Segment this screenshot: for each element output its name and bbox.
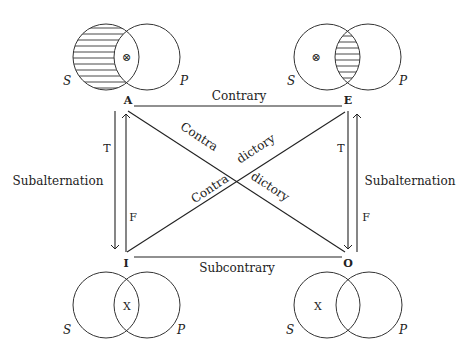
square-of-opposition: A E I O Contrary Subcontrary Contra dict…	[13, 89, 456, 275]
label-s-a: S	[63, 74, 71, 88]
x-mark-a: ⊗	[122, 51, 131, 64]
right-subalternation-label: Subalternation	[365, 174, 456, 188]
right-true-label: T	[337, 142, 345, 155]
contrary-label: Contrary	[212, 89, 267, 103]
square-of-opposition-diagram: ⊗ S P ⊗ S P	[0, 0, 473, 357]
x-mark-e: ⊗	[311, 51, 320, 64]
corner-i: I	[123, 257, 128, 270]
subcontrary-label: Subcontrary	[199, 261, 275, 275]
right-false-label: F	[362, 211, 370, 224]
label-s-o: S	[286, 323, 294, 337]
contradictory-label-e-part2: dictory	[234, 131, 278, 166]
label-s-e: S	[287, 74, 295, 88]
venn-diagram-o: X S P	[286, 272, 408, 338]
label-s-i: S	[63, 323, 71, 337]
x-mark-o: X	[314, 300, 322, 313]
corner-o: O	[343, 257, 353, 270]
contradictory-label-o-part2: dictory	[248, 169, 292, 204]
circle-p-o	[336, 272, 402, 338]
circle-s-e	[294, 24, 360, 90]
circle-p-e	[335, 24, 401, 90]
corner-e: E	[344, 94, 352, 107]
circle-s-o	[294, 272, 360, 338]
label-p-e: P	[398, 74, 408, 88]
venn-diagram-e: ⊗ S P	[287, 24, 408, 90]
x-mark-i: X	[123, 300, 131, 313]
left-true-label: T	[103, 142, 111, 155]
left-subalternation-label: Subalternation	[13, 174, 104, 188]
venn-diagram-i: X S P	[63, 272, 186, 338]
left-false-label: F	[129, 211, 137, 224]
label-p-i: P	[176, 323, 186, 337]
corner-a: A	[123, 94, 133, 107]
label-p-o: P	[398, 323, 408, 337]
venn-diagram-a: ⊗ S P	[63, 24, 189, 90]
label-p-a: P	[179, 74, 189, 88]
contradictory-label-a-part1: Contra	[178, 119, 221, 154]
